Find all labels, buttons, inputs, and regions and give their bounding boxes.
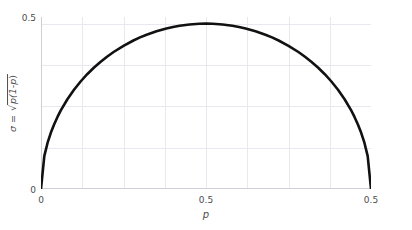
x-tick-label-2: 0.5: [364, 196, 378, 205]
x-tick-label-1: 0.5: [199, 196, 213, 205]
radicand-right: ): [7, 75, 18, 79]
sqrt-radical-icon: √: [7, 105, 18, 111]
plot-area: [41, 17, 371, 189]
radicand-left: p(1-: [7, 85, 18, 104]
chart-figure: 0.5 0 σ = √p(1-p) 0 0.5 0.5 p: [0, 0, 412, 230]
y-axis-label: σ = √p(1-p): [7, 74, 19, 132]
y-axis-label-equals: =: [7, 112, 18, 126]
grid-lines: [41, 17, 371, 189]
plot-canvas: [41, 17, 371, 189]
y-tick-label-top: 0.5: [22, 14, 36, 23]
sqrt-group: √p(1-p): [7, 74, 19, 112]
y-tick-label-bottom: 0: [30, 186, 36, 195]
sqrt-radicand: p(1-p): [7, 74, 19, 105]
x-axis-label: p: [203, 210, 209, 220]
x-tick-label-0: 0: [38, 196, 44, 205]
radicand-var: p: [7, 79, 18, 85]
y-axis-label-sigma: σ: [7, 126, 18, 132]
